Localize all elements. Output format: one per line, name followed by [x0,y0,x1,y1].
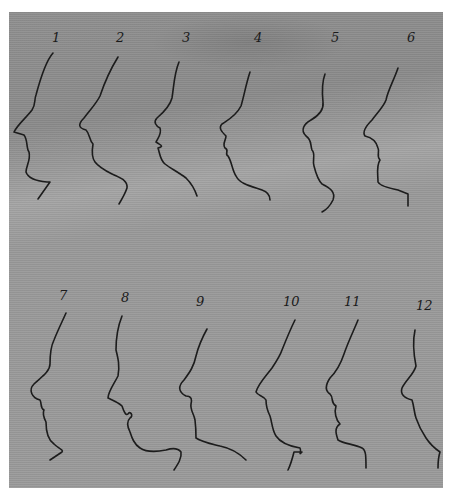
profile-1 [14,53,53,199]
profile-4 [220,72,270,200]
profile-7 [31,313,66,460]
profile-12 [401,330,440,468]
profile-9 [180,329,246,460]
profile-8 [108,316,181,470]
profiles-drawing [0,0,451,500]
profile-11 [326,320,366,468]
profile-5 [303,74,334,212]
profile-6 [364,68,408,206]
profile-2 [80,57,127,204]
profile-10 [256,320,302,470]
profile-3 [155,62,197,196]
